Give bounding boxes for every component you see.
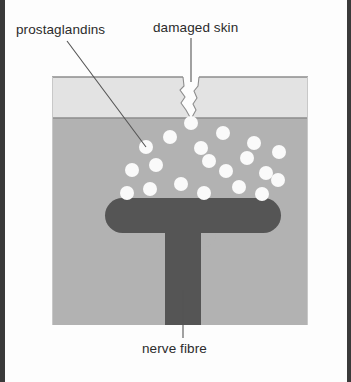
prostaglandin-dot	[194, 141, 208, 155]
label-prostaglandins: prostaglandins	[16, 22, 105, 37]
prostaglandin-dot	[271, 173, 285, 187]
prostaglandin-dot	[272, 145, 286, 159]
prostaglandin-dot	[143, 182, 157, 196]
label-nerve-fibre: nerve fibre	[142, 341, 207, 356]
prostaglandin-dot	[149, 158, 163, 172]
prostaglandin-dot	[247, 136, 261, 150]
prostaglandin-dot	[184, 116, 198, 130]
prostaglandin-dot	[240, 151, 254, 165]
prostaglandin-dot	[174, 177, 188, 191]
prostaglandin-dot	[202, 154, 216, 168]
diagram-page: prostaglandins damaged skin nerve fibre	[0, 0, 351, 382]
prostaglandin-dot	[125, 163, 139, 177]
label-damaged-skin: damaged skin	[153, 20, 238, 35]
prostaglandin-dot	[255, 187, 269, 201]
epidermis-layer	[52, 77, 308, 119]
page-content-area: prostaglandins damaged skin nerve fibre	[5, 0, 347, 382]
skin-cross-section-diagram	[5, 0, 347, 382]
prostaglandin-dot	[120, 186, 134, 200]
prostaglandin-dot	[197, 186, 211, 200]
nerve-fibre-bar	[105, 198, 281, 233]
prostaglandin-dot	[163, 130, 177, 144]
prostaglandin-dot	[219, 164, 233, 178]
prostaglandin-dot	[216, 126, 230, 140]
page-edge-bar-right	[347, 0, 351, 382]
prostaglandin-dot	[259, 166, 273, 180]
prostaglandin-dot	[232, 180, 246, 194]
